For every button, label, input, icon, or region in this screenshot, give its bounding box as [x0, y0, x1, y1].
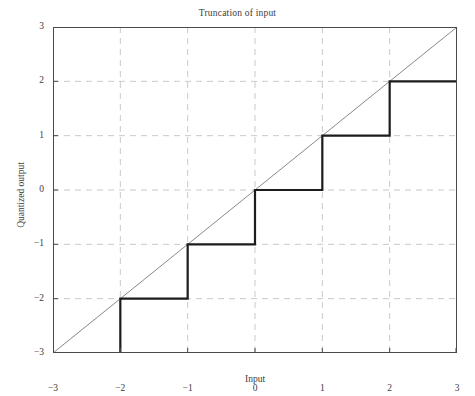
y-tick-label--1: −1 — [16, 238, 44, 248]
x-tick-label--2: −2 — [105, 383, 135, 393]
x-axis-label: Input — [53, 374, 457, 384]
plot-area: −3 −2 −1 0 1 2 3 3 2 1 0 −1 −2 −3 — [53, 27, 457, 353]
x-tick-label--3: −3 — [38, 383, 68, 393]
chart-title: Truncation of input — [0, 8, 475, 18]
y-tick-label--3: −3 — [16, 347, 44, 357]
x-tick-label-3: 3 — [442, 383, 472, 393]
plot-canvas — [53, 27, 457, 353]
y-tick-label-2: 2 — [16, 75, 44, 85]
x-tick-label--1: −1 — [173, 383, 203, 393]
x-tick-label-0: 0 — [240, 383, 270, 393]
x-tick-label-1: 1 — [307, 383, 337, 393]
y-tick-label-0: 0 — [16, 184, 44, 194]
y-tick-label-1: 1 — [16, 130, 44, 140]
chart-figure: Truncation of input Quantized output — [0, 0, 475, 396]
y-tick-label--2: −2 — [16, 293, 44, 303]
y-tick-label-3: 3 — [16, 21, 44, 31]
x-tick-label-2: 2 — [375, 383, 405, 393]
